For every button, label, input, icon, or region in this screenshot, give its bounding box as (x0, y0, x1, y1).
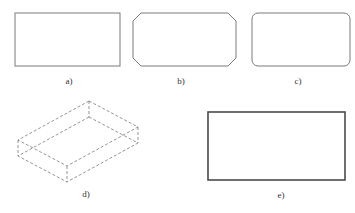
label-c: c) (295, 77, 302, 86)
label-d: d) (82, 190, 90, 199)
label-e: e) (278, 191, 285, 200)
label-b: b) (177, 77, 185, 86)
shape-c-rounded-rectangle (252, 13, 350, 66)
shape-e-thick-rectangle (208, 112, 345, 180)
shape-d-dashed-box (18, 101, 138, 182)
shape-b-chamfered-rectangle (133, 13, 236, 66)
shape-a-rectangle (15, 13, 120, 66)
figure-canvas (0, 0, 355, 213)
label-a: a) (66, 77, 73, 86)
